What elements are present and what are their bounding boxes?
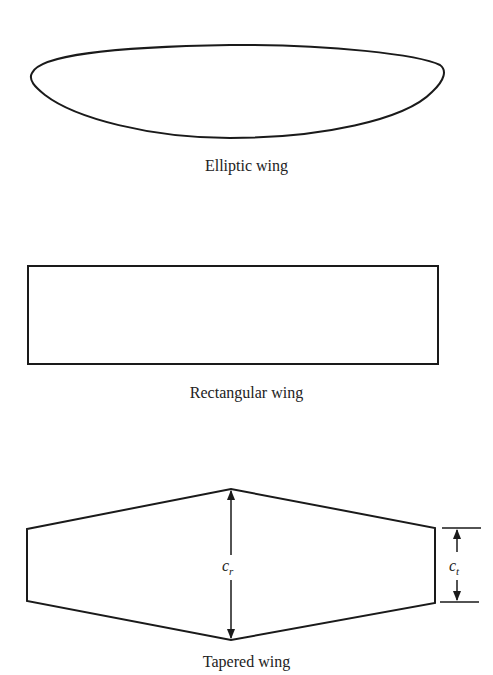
rectangular-wing-caption: Rectangular wing: [0, 384, 493, 402]
tapered-wing-caption: Tapered wing: [0, 653, 493, 671]
rectangular-wing-outline: [28, 266, 438, 364]
elliptic-wing-caption: Elliptic wing: [0, 157, 493, 175]
root-chord-label: cr: [222, 557, 233, 578]
tip-chord-label: ct: [449, 557, 459, 578]
elliptic-wing-outline: [31, 45, 444, 138]
wing-planforms-diagram: [0, 0, 493, 675]
